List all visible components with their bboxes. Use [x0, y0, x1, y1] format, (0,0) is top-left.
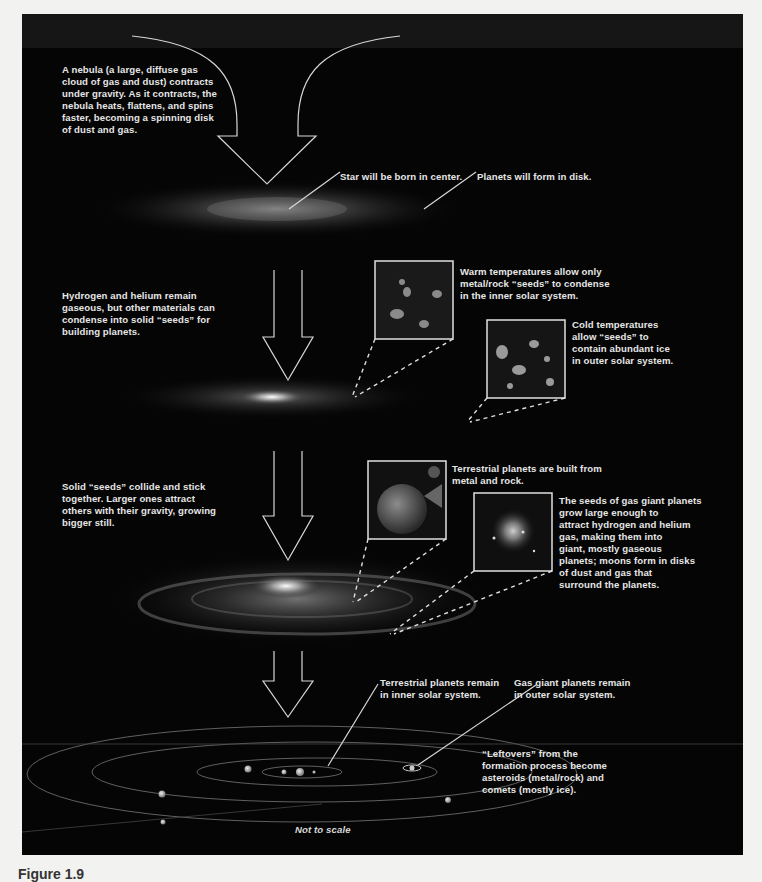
step-3-description: Solid “seeds” collide and stick together…: [62, 481, 216, 529]
step-1-description: A nebula (a large, diffuse gas cloud of …: [62, 64, 217, 136]
top-band: [22, 14, 743, 48]
step-2-description: Hydrogen and helium remain gaseous, but …: [62, 290, 215, 338]
not-to-scale-note: Not to scale: [295, 824, 351, 836]
solar-system-orbits: [22, 726, 743, 832]
callout-gas-giant-seeds: The seeds of gas giant planets grow larg…: [559, 495, 702, 591]
inset-metal-rock-seeds: [375, 261, 453, 339]
inset-ice-seeds: [487, 320, 565, 398]
down-arrow-icon: [263, 651, 313, 717]
callout-warm-temperatures: Warm temperatures allow only metal/rock …: [460, 266, 610, 302]
callout-terrestrial-remain: Terrestrial planets remain in inner sola…: [380, 677, 499, 701]
callout-terrestrial-built: Terrestrial planets are built from metal…: [452, 463, 602, 487]
figure-caption: Figure 1.9: [18, 866, 84, 882]
callout-gas-giant-remain: Gas giant planets remain in outer solar …: [514, 677, 631, 701]
callout-star-center: Star will be born in center.: [340, 171, 462, 183]
callout-planets-disk: Planets will form in disk.: [477, 171, 592, 183]
callout-cold-temperatures: Cold temperatures allow “seeds” to conta…: [572, 319, 673, 367]
figure-panel: A nebula (a large, diffuse gas cloud of …: [22, 14, 743, 855]
down-arrow-icon: [263, 270, 313, 380]
diagram-graphics: [22, 14, 743, 855]
down-arrow-icon: [263, 451, 313, 560]
protoplanetary-disk: [112, 554, 482, 644]
callout-leftovers: “Leftovers” from the formation process b…: [482, 748, 607, 796]
